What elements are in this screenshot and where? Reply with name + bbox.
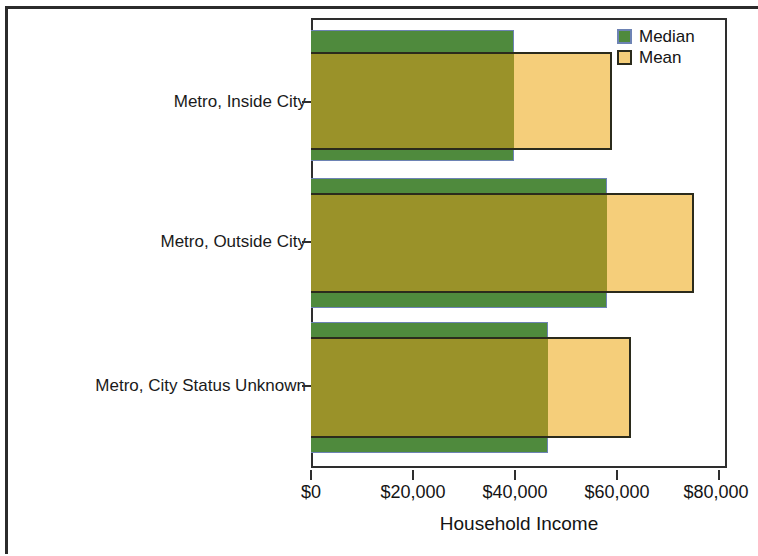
bar-overlap-metro-outside-city [311,193,607,293]
x-tick-mark-20000 [412,470,414,480]
x-tick-label-80000: $80,000 [683,482,748,503]
y-tick-mark-3 [302,385,311,387]
legend-item-mean[interactable]: Mean [617,47,721,67]
legend-swatch-mean-icon [617,50,632,65]
chart-figure: Metro, Inside City Metro, Outside City M… [0,0,758,556]
legend-label-mean: Mean [639,49,682,66]
x-tick-label-20000: $20,000 [380,482,445,503]
bar-overlap-metro-inside-city [311,52,514,150]
x-tick-mark-0 [310,470,312,480]
x-tick-mark-60000 [616,470,618,480]
x-tick-label-40000: $40,000 [482,482,547,503]
x-tick-label-0: $0 [301,482,321,503]
x-tick-mark-40000 [514,470,516,480]
y-tick-mark-1 [302,101,311,103]
x-axis-title: Household Income [311,513,727,535]
y-axis-label-metro-outside-city: Metro, Outside City [161,232,307,252]
legend-item-median[interactable]: Median [617,26,721,46]
y-axis-label-metro-city-status-unknown: Metro, City Status Unknown [95,376,306,396]
page-border-top-segment [740,6,758,9]
y-tick-mark-2 [302,241,311,243]
plot-area: Median Mean [311,18,727,468]
legend-swatch-median-icon [617,29,632,44]
chart-legend: Median Mean [617,26,721,68]
y-axis-label-metro-inside-city: Metro, Inside City [174,92,306,112]
bar-overlap-metro-city-status-unknown [311,337,548,438]
x-tick-mark-80000 [718,470,720,480]
legend-label-median: Median [639,28,695,45]
x-tick-label-60000: $60,000 [584,482,649,503]
